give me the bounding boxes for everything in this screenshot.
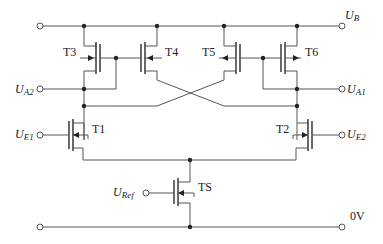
transistor-t2 bbox=[293, 119, 345, 160]
circuit-diagram: UB 0V UA2 UA1 UE1 UE2 URef T3 T4 T5 T6 T… bbox=[0, 0, 383, 244]
schematic bbox=[0, 0, 383, 244]
transistor-t1 bbox=[37, 119, 88, 160]
label-t2: T2 bbox=[276, 123, 289, 135]
label-uref: URef bbox=[113, 186, 134, 200]
label-ub: UB bbox=[345, 9, 359, 23]
label-t6: T6 bbox=[305, 46, 318, 58]
label-ue1: UE1 bbox=[15, 128, 34, 142]
label-0v: 0V bbox=[350, 210, 365, 222]
label-t4: T4 bbox=[165, 46, 178, 58]
label-ua1: UA1 bbox=[347, 83, 366, 97]
label-ue2: UE2 bbox=[347, 128, 366, 142]
transistor-t4 bbox=[116, 26, 162, 80]
terminal-ua2 bbox=[37, 86, 43, 92]
label-t5: T5 bbox=[202, 46, 215, 58]
label-t1: T1 bbox=[92, 123, 105, 135]
label-ua2: UA2 bbox=[15, 83, 34, 97]
label-ts: TS bbox=[198, 181, 212, 193]
terminal-ua1 bbox=[339, 86, 345, 92]
label-t3: T3 bbox=[63, 46, 76, 58]
transistor-t5 bbox=[219, 26, 263, 80]
transistor-t6 bbox=[263, 26, 301, 89]
transistor-ts bbox=[143, 160, 194, 227]
transistor-t3 bbox=[80, 26, 116, 89]
